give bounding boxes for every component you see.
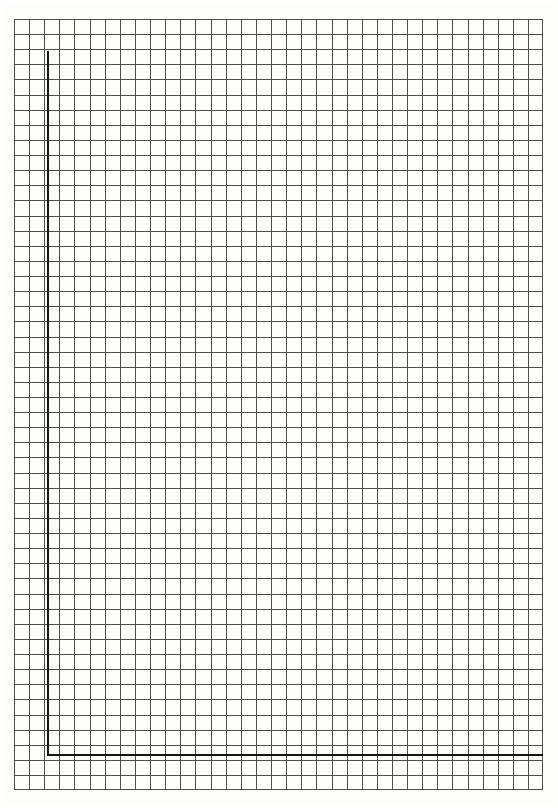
grid-right-edge-line <box>542 19 543 790</box>
margin-rule-horizontal-line <box>47 754 543 756</box>
graph-paper-grid <box>14 19 543 790</box>
grid-bottom-edge-line <box>14 789 543 790</box>
margin-rule-vertical-line <box>47 51 49 755</box>
graph-paper-page <box>0 0 558 808</box>
